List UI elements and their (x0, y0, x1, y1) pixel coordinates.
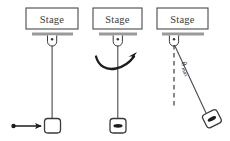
stage-box-left: Stage (26, 8, 78, 29)
pivot-pin-middle (117, 38, 120, 41)
panel-left: Stage (11, 8, 78, 133)
pivot-bracket-left-shape (48, 36, 57, 47)
pendulum-bob-right (201, 109, 222, 129)
stage-box-right: Stage (157, 8, 208, 29)
pivot-bracket-middle-shape (113, 36, 122, 47)
support-bar-right (162, 33, 204, 36)
swing-arrow-middle (96, 57, 134, 69)
theta-max-label: θ max (178, 60, 193, 78)
support-bar-left (32, 33, 73, 36)
pendulum-diagram-svg: Stage Stage (0, 0, 230, 141)
stage-box-middle: Stage (93, 8, 142, 29)
panel-right: Stage θ max (157, 8, 222, 129)
push-arrow-left (11, 124, 41, 128)
pendulum-bob-middle (110, 119, 126, 134)
pivot-pin-left (51, 38, 54, 41)
stage-label-right: Stage (170, 14, 194, 25)
pendulum-figure: Stage Stage (0, 0, 230, 141)
pendulum-bob-left (45, 119, 61, 134)
stage-label-middle: Stage (105, 14, 129, 25)
panel-middle: Stage (93, 8, 142, 133)
pendulum-rod-right (175, 45, 207, 113)
pivot-bracket-middle (113, 36, 122, 47)
support-bar-middle (99, 33, 137, 36)
stage-label-left: Stage (40, 14, 64, 25)
pivot-bracket-right-shape (169, 36, 178, 47)
pivot-bracket-right (169, 36, 178, 47)
bob-marker-middle (113, 124, 122, 128)
pivot-pin-right (173, 38, 176, 41)
swing-arc (96, 57, 134, 69)
pivot-bracket-left (48, 36, 57, 47)
